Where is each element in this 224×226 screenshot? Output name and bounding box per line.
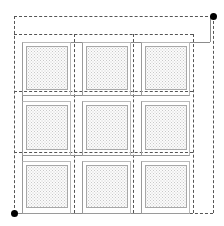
module-r3c2-panel[interactable] (86, 165, 128, 208)
module-r3c3-panel[interactable] (145, 165, 187, 208)
module-r2c3-panel[interactable] (145, 105, 187, 150)
guide-col2-right (133, 34, 134, 213)
module-r2c1-panel[interactable] (26, 105, 68, 150)
module-r1c3-panel[interactable] (145, 46, 187, 90)
module-r3c1-panel[interactable] (26, 165, 68, 208)
guide-right-outer (213, 16, 214, 213)
node-bottom-left[interactable] (11, 210, 18, 217)
guide-col1-right (74, 34, 75, 213)
module-r2c2-panel[interactable] (86, 105, 128, 150)
module-r1c2-panel[interactable] (86, 46, 128, 90)
guide-col3-right (193, 34, 194, 213)
feeder-vertical-right (210, 16, 211, 42)
diagram-canvas (0, 0, 224, 226)
guide-top-inner (14, 34, 193, 35)
node-top-right[interactable] (210, 13, 217, 20)
module-r1c1-panel[interactable] (26, 46, 68, 90)
guide-top-outer (14, 16, 213, 17)
guide-left (14, 16, 15, 213)
